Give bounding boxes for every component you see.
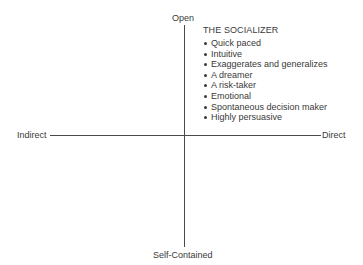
bullet-icon [204, 106, 207, 109]
trait-label: Quick paced [211, 38, 261, 48]
trait-label: A risk-taker [211, 80, 256, 90]
trait-label: Highly persuasive [211, 112, 282, 122]
horizontal-axis-indirect-direct [50, 135, 321, 136]
trait-list: Quick paced Intuitive Exaggerates and ge… [203, 38, 328, 123]
vertical-axis-open-self-contained [184, 25, 185, 247]
trait-item: Exaggerates and generalizes [203, 59, 328, 70]
trait-item: A dreamer [203, 70, 328, 81]
quadrant-title: THE SOCIALIZER [203, 25, 328, 36]
trait-item: A risk-taker [203, 80, 328, 91]
bullet-icon [204, 42, 207, 45]
quadrant-socializer: THE SOCIALIZER Quick paced Intuitive Exa… [203, 25, 328, 123]
trait-item: Intuitive [203, 49, 328, 60]
bullet-icon [204, 63, 207, 66]
trait-item: Quick paced [203, 38, 328, 49]
trait-item: Emotional [203, 91, 328, 102]
bullet-icon [204, 84, 207, 87]
axis-label-self-contained: Self-Contained [153, 250, 213, 260]
trait-label: Intuitive [211, 49, 242, 59]
trait-item: Spontaneous decision maker [203, 102, 328, 113]
axis-label-open: Open [172, 13, 194, 23]
trait-label: Emotional [211, 91, 251, 101]
bullet-icon [204, 53, 207, 56]
axis-label-direct: Direct [322, 130, 346, 140]
bullet-icon [204, 74, 207, 77]
trait-label: A dreamer [211, 70, 253, 80]
trait-label: Spontaneous decision maker [211, 102, 327, 112]
trait-label: Exaggerates and generalizes [211, 59, 328, 69]
bullet-icon [204, 95, 207, 98]
axis-label-indirect: Indirect [17, 130, 47, 140]
trait-item: Highly persuasive [203, 112, 328, 123]
bullet-icon [204, 116, 207, 119]
